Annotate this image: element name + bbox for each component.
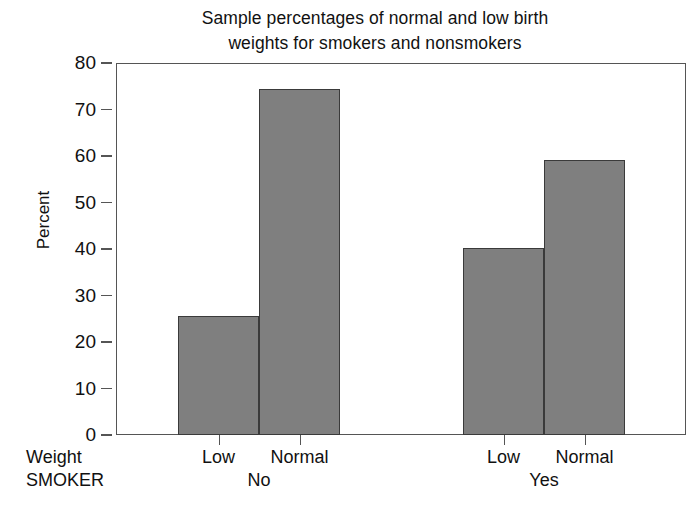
y-tick-label: 70 (75, 97, 96, 122)
bar (544, 160, 625, 435)
y-tick-mark (101, 62, 112, 64)
y-tick-label: 30 (75, 283, 96, 308)
y-tick-mark (101, 388, 112, 390)
y-tick-label: 50 (75, 190, 96, 215)
x-group-label: Yes (484, 468, 604, 492)
bar-chart: Sample percentages of normal and low bir… (0, 0, 697, 505)
group-axis-title: SMOKER (26, 468, 104, 492)
y-tick-label: 80 (75, 50, 96, 75)
y-tick-label: 40 (75, 236, 96, 261)
y-tick-mark (101, 434, 112, 436)
x-group-label: No (199, 468, 319, 492)
y-tick-label: 60 (75, 143, 96, 168)
y-tick-mark (101, 341, 112, 343)
bar (178, 316, 259, 435)
y-tick-mark (101, 109, 112, 111)
x-tick-mark (219, 435, 221, 445)
x-category-label: Normal (240, 445, 360, 469)
category-axis-title: Weight (26, 445, 82, 469)
x-tick-mark (300, 435, 302, 445)
y-tick-mark (101, 155, 112, 157)
y-tick-label: 20 (75, 329, 96, 354)
y-tick-mark (101, 248, 112, 250)
x-category-label: Normal (525, 445, 645, 469)
y-tick-mark (101, 202, 112, 204)
chart-title-line-2: weights for smokers and nonsmokers (70, 31, 680, 56)
chart-title-line-1: Sample percentages of normal and low bir… (70, 6, 680, 31)
y-tick-label: 10 (75, 376, 96, 401)
y-axis-title: Percent (34, 160, 54, 280)
y-tick-mark (101, 295, 112, 297)
chart-title: Sample percentages of normal and low bir… (70, 6, 680, 56)
bar (259, 89, 340, 435)
x-tick-mark (504, 435, 506, 445)
y-tick-label: 0 (85, 422, 96, 447)
bar (463, 248, 544, 435)
x-tick-mark (585, 435, 587, 445)
